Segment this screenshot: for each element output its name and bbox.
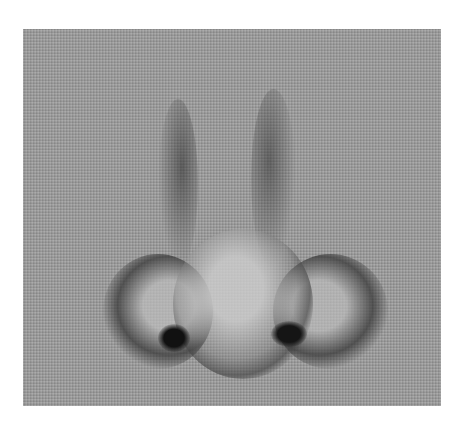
left-nostril — [158, 324, 190, 352]
image-subject: Pencil drawing of a human nose, front vi… — [0, 0, 1, 1]
nose-tip — [173, 229, 313, 379]
right-nostril — [271, 321, 307, 347]
textured-canvas — [23, 29, 441, 406]
bridge-left-shadow — [158, 99, 198, 269]
